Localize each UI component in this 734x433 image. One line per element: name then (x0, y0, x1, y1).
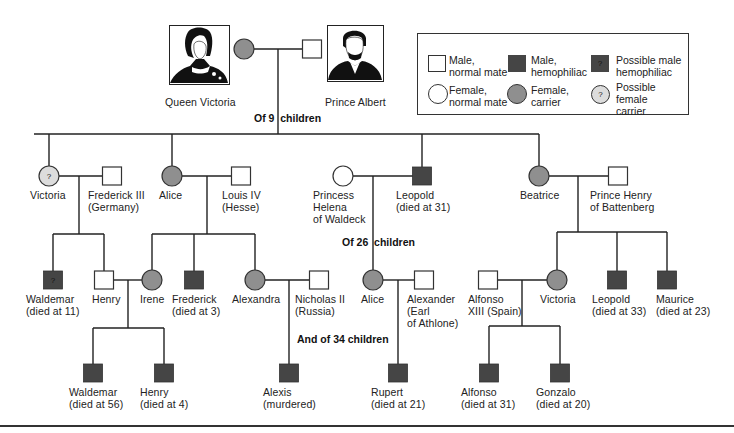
person-beatrice-circle-icon (529, 166, 549, 186)
bottom-divider (0, 425, 734, 427)
prince-albert-image (328, 26, 382, 80)
male-hemophiliac-icon (508, 55, 526, 72)
person-henry-square-icon (95, 271, 114, 289)
female-carrier-icon (507, 84, 527, 104)
note-9-children: Of 9 children (254, 112, 321, 124)
person-label-irene: Irene (140, 293, 164, 305)
person-gonzalo-square-icon (551, 364, 570, 382)
person-label-gonzalo: Gonzalo (died at 20) (536, 386, 590, 410)
person-leopold-31-square-icon (413, 167, 432, 185)
male-normal-icon (428, 55, 446, 72)
legend-possible-male-hemophiliac: Possible male hemophiliac (616, 54, 681, 78)
queen-victoria-image (170, 26, 228, 83)
person-label-frederick-3: Frederick (died at 3) (172, 293, 220, 317)
legend: Male, normal mate Male, hemophiliac ? Po… (417, 33, 689, 115)
person-princess-helena-circle-icon (333, 166, 353, 186)
person-label-alice-2: Alice (361, 293, 384, 305)
person-rupert-square-icon (389, 364, 408, 382)
person-frederick-3-square-icon (185, 271, 204, 289)
person-label-leopold-31: Leopold (died at 31) (396, 189, 450, 213)
person-prince-henry-square-icon (609, 167, 628, 185)
person-label-henry-4: Henry (died at 4) (140, 386, 188, 410)
person-victoria-circle-icon: ? (39, 166, 59, 186)
person-louis-iv-square-icon (232, 167, 251, 185)
person-label-leopold-33: Leopold (died at 33) (592, 293, 646, 317)
person-label-nicholas-ii: Nicholas II (Russia) (295, 293, 345, 317)
person-waldemar-56-square-icon (84, 364, 103, 382)
person-label-alexis: Alexis (murdered) (263, 386, 316, 410)
person-alexis-square-icon (280, 364, 299, 382)
person-label-maurice: Maurice (died at 23) (656, 293, 710, 317)
person-irene-circle-icon (142, 270, 162, 290)
legend-possible-female-carrier: Possible female carrier (616, 81, 656, 117)
question-mark: ? (598, 90, 602, 99)
person-nicholas-ii-square-icon (310, 271, 329, 289)
possible-male-hemophiliac-icon: ? (591, 55, 609, 72)
person-alice-circle-icon (162, 166, 182, 186)
person-label-waldemar-11: Waldemar (died at 11) (26, 293, 80, 317)
possible-female-carrier-icon: ? (591, 85, 610, 104)
person-frederick-iii-square-icon (103, 167, 122, 185)
person-henry-4-square-icon (155, 364, 174, 382)
person-queen-victoria-circle-icon (234, 39, 254, 59)
person-label-louis-iv: Louis IV (Hesse) (222, 189, 261, 213)
legend-female-normal: Female, normal mate (449, 84, 507, 108)
person-label-alice: Alice (159, 189, 182, 201)
person-label-frederick-iii: Frederick III (Germany) (88, 189, 145, 213)
person-leopold-33-square-icon (608, 271, 627, 289)
person-label-waldemar-56: Waldemar (died at 56) (69, 386, 123, 410)
person-alexandra-circle-icon (245, 270, 265, 290)
prince-albert-portrait (327, 25, 384, 82)
person-alfonso-xiii-square-icon (479, 271, 498, 289)
person-label-alexandra: Alexandra (232, 293, 280, 305)
person-prince-albert-square-icon (303, 40, 322, 58)
prince-albert-label: Prince Albert (325, 96, 386, 108)
person-label-prince-henry: Prince Henry of Battenberg (590, 189, 654, 213)
legend-male-hemophiliac: Male, hemophiliac (531, 54, 587, 78)
queen-victoria-portrait (169, 25, 230, 85)
person-label-beatrice: Beatrice (520, 189, 559, 201)
legend-female-carrier: Female, carrier (531, 84, 569, 108)
question-mark: ? (598, 59, 602, 68)
person-victoria-2-circle-icon (547, 270, 567, 290)
person-maurice-square-icon (658, 271, 677, 289)
legend-male-normal: Male, normal mate (449, 54, 507, 78)
person-label-alfonso-31: Alfonso (died at 31) (461, 386, 515, 410)
person-label-victoria-2: Victoria (540, 293, 576, 305)
person-label-alexander: Alexander (Earl of Athlone) (407, 293, 458, 329)
person-alice-2-circle-icon (363, 270, 383, 290)
svg-text:?: ? (51, 276, 56, 285)
female-normal-icon (428, 84, 448, 104)
person-label-henry: Henry (92, 293, 121, 305)
note-26-children: Of 26 children (342, 236, 415, 248)
person-label-victoria: Victoria (30, 189, 66, 201)
person-label-princess-helena: Princess Helena of Waldeck (313, 189, 366, 225)
person-label-alfonso-xiii: Alfonso XIII (Spain) (468, 293, 522, 317)
person-alfonso-31-square-icon (480, 364, 499, 382)
person-label-rupert: Rupert (died at 21) (371, 386, 425, 410)
person-waldemar-11-square-icon: ? (44, 271, 63, 289)
person-alexander-square-icon (415, 271, 434, 289)
svg-text:?: ? (47, 172, 52, 181)
queen-victoria-label: Queen Victoria (165, 96, 236, 108)
note-34-children: And of 34 children (297, 333, 389, 345)
